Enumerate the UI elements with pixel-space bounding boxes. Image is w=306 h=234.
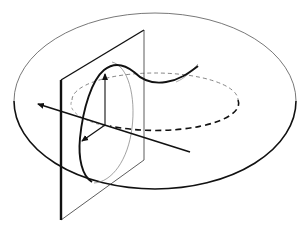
outer-boundary bbox=[14, 13, 296, 189]
torus-section-diagram bbox=[0, 0, 306, 234]
radial-vector bbox=[82, 125, 105, 141]
diagram-svg bbox=[0, 0, 306, 234]
